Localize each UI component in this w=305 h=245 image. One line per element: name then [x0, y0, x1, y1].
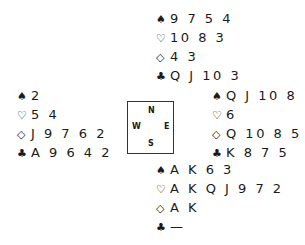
west-spades: ♠2	[17, 86, 112, 105]
club-icon: ♣	[17, 144, 31, 163]
heart-icon: ♡	[156, 29, 170, 48]
west-diamonds: ◇J 9 7 6 2	[17, 124, 112, 143]
heart-icon: ♡	[156, 180, 170, 199]
compass-box: N W E S	[127, 101, 174, 154]
north-hearts: ♡10 8 3	[156, 28, 241, 47]
spade-icon: ♠	[156, 161, 170, 180]
heart-icon: ♡	[212, 106, 226, 125]
east-hearts: ♡6	[212, 105, 302, 124]
east-spades: ♠Q J 10 8	[212, 86, 302, 105]
compass-north-label: N	[148, 106, 155, 116]
north-clubs: ♣Q J 10 3	[156, 66, 241, 85]
south-diamonds: ◇A K	[156, 198, 284, 217]
compass-east-label: E	[164, 122, 169, 132]
east-diamonds: ◇Q 10 8 5	[212, 124, 302, 143]
club-icon: ♣	[156, 218, 170, 237]
spade-icon: ♠	[17, 87, 31, 106]
club-icon: ♣	[156, 67, 170, 86]
north-hand: ♠9 7 5 4 ♡10 8 3 ◇4 3 ♣Q J 10 3	[156, 9, 241, 85]
diamond-icon: ◇	[156, 199, 170, 218]
compass-west-label: W	[132, 122, 141, 132]
east-hand: ♠Q J 10 8 ♡6 ◇Q 10 8 5 ♣K 8 7 5	[212, 86, 302, 162]
west-hearts: ♡5 4	[17, 105, 112, 124]
diamond-icon: ◇	[212, 125, 226, 144]
south-hearts: ♡A K Q J 9 7 2	[156, 179, 284, 198]
north-diamonds: ◇4 3	[156, 47, 241, 66]
diamond-icon: ◇	[17, 125, 31, 144]
heart-icon: ♡	[17, 106, 31, 125]
compass-south-label: S	[148, 139, 154, 149]
spade-icon: ♠	[212, 87, 226, 106]
spade-icon: ♠	[156, 10, 170, 29]
south-hand: ♠A K 6 3 ♡A K Q J 9 7 2 ◇A K ♣—	[156, 160, 284, 236]
diamond-icon: ◇	[156, 48, 170, 67]
west-clubs: ♣A 9 6 4 2	[17, 143, 112, 162]
south-clubs: ♣—	[156, 217, 284, 236]
west-hand: ♠2 ♡5 4 ◇J 9 7 6 2 ♣A 9 6 4 2	[17, 86, 112, 162]
south-spades: ♠A K 6 3	[156, 160, 284, 179]
north-spades: ♠9 7 5 4	[156, 9, 241, 28]
